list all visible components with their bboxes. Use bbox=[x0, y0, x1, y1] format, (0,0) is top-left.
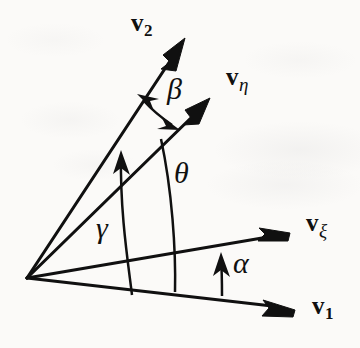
vector-label-v-eta-subscript: η bbox=[239, 74, 248, 95]
arc-arrowhead-beta-end bbox=[157, 116, 180, 130]
angle-arcs bbox=[121, 101, 222, 296]
vector-label-v-eta-base: v bbox=[226, 63, 239, 90]
vector-label-v-xi-base: v bbox=[306, 209, 319, 236]
angle-label-beta: β bbox=[167, 74, 182, 104]
vector-ray-v-xi bbox=[27, 228, 290, 278]
vector-label-v-xi: vξ bbox=[306, 210, 327, 240]
vector-label-v1: v1 bbox=[312, 293, 334, 322]
vector-label-v1-subscript: 1 bbox=[325, 304, 334, 323]
vector-label-v2-base: v bbox=[131, 9, 144, 36]
vector-rays bbox=[27, 38, 295, 317]
angle-label-gamma: γ bbox=[96, 213, 108, 243]
vector-label-v-eta: vη bbox=[226, 64, 248, 94]
vector-label-v2-subscript: 2 bbox=[144, 21, 153, 40]
vector-ray-v1 bbox=[27, 278, 295, 317]
angle-label-theta: θ bbox=[174, 158, 189, 188]
vector-label-v1-base: v bbox=[312, 292, 325, 319]
vector-label-v2: v2 bbox=[131, 10, 153, 39]
angle-label-alpha: α bbox=[233, 248, 249, 278]
vector-label-v-xi-subscript: ξ bbox=[319, 220, 327, 241]
vector-angle-diagram: v2 vη vξ v1 β θ γ α bbox=[0, 0, 360, 348]
